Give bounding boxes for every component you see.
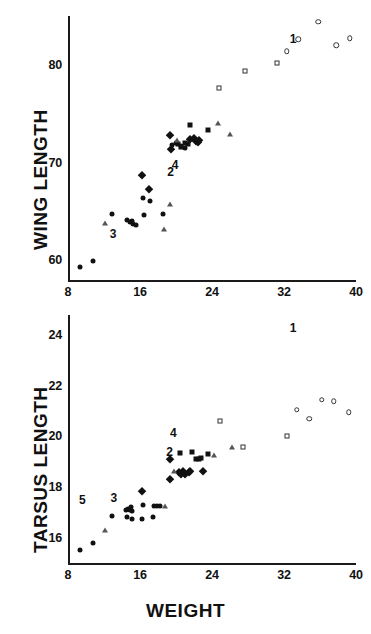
data-point-filled-circle — [160, 212, 165, 217]
group-label-2: 2 — [166, 445, 173, 459]
data-point-open-square — [240, 444, 245, 449]
tarsus-xtick-label: 40 — [349, 568, 363, 582]
data-point-filled-circle — [129, 516, 134, 521]
tarsus-x-axis-line — [68, 563, 356, 565]
data-point-open-circle — [315, 19, 321, 25]
data-point-filled-square — [190, 449, 195, 454]
wing-y-axis-line — [68, 16, 70, 280]
data-point-open-circle — [333, 43, 339, 49]
data-point-open-triangle — [167, 201, 173, 206]
tarsus-ytick-label: 22 — [32, 379, 62, 393]
wing-ytick-label: 80 — [32, 58, 62, 72]
data-point-open-triangle — [162, 504, 168, 509]
data-point-open-square — [218, 419, 223, 424]
panel-wing-length: 1234 WING LENGTH 607080816243240 — [0, 0, 371, 305]
data-point-open-square — [274, 60, 279, 65]
data-point-open-triangle — [227, 132, 233, 137]
data-point-filled-diamond — [199, 467, 207, 475]
weight-axis-title: WEIGHT — [0, 600, 371, 622]
data-point-open-square — [284, 434, 289, 439]
group-label-3: 3 — [110, 227, 117, 241]
data-point-open-triangle — [102, 221, 108, 226]
data-point-filled-square — [185, 142, 190, 147]
wing-axis-title: WING LENGTH — [30, 109, 52, 250]
data-point-open-square — [243, 68, 248, 73]
data-point-filled-diamond — [187, 467, 195, 475]
data-point-filled-square — [206, 128, 211, 133]
data-point-filled-diamond — [138, 171, 146, 179]
wing-xtick-label: 24 — [205, 285, 219, 299]
tarsus-y-axis-line — [68, 315, 70, 563]
tarsus-xtick-label: 8 — [65, 568, 72, 582]
data-point-filled-circle — [147, 198, 152, 203]
data-point-filled-circle — [140, 502, 145, 507]
data-point-filled-circle — [110, 212, 115, 217]
tarsus-axis-title: TARSUS LENGTH — [30, 386, 52, 553]
data-point-filled-circle — [140, 195, 145, 200]
data-point-filled-square — [177, 450, 182, 455]
data-point-filled-circle — [91, 540, 96, 545]
data-point-open-triangle — [211, 453, 217, 458]
data-point-open-circle — [306, 416, 312, 422]
data-point-filled-circle — [139, 516, 144, 521]
data-point-open-circle — [346, 410, 352, 416]
tarsus-ytick-label: 18 — [32, 480, 62, 494]
data-point-open-circle — [284, 48, 290, 54]
group-label-1: 1 — [290, 321, 297, 335]
group-label-4: 4 — [170, 426, 177, 440]
tarsus-ytick-label: 16 — [32, 531, 62, 545]
data-point-filled-square — [205, 452, 210, 457]
data-point-open-triangle — [102, 528, 108, 533]
caption-remnant — [0, 626, 371, 634]
scatter-figure: 1234 WING LENGTH 607080816243240 12345 T… — [0, 0, 371, 634]
data-point-filled-diamond — [166, 131, 174, 139]
wing-x-axis-line — [68, 280, 356, 282]
data-point-filled-circle — [110, 514, 115, 519]
data-point-filled-circle — [91, 259, 96, 264]
tarsus-xtick-label: 16 — [133, 568, 147, 582]
group-label-4: 4 — [172, 158, 179, 172]
tarsus-xtick-label: 24 — [205, 568, 219, 582]
group-label-5: 5 — [79, 493, 86, 507]
wing-ytick-label: 70 — [32, 156, 62, 170]
data-point-open-triangle — [174, 138, 180, 143]
data-point-open-square — [217, 86, 222, 91]
wing-xtick-label: 16 — [133, 285, 147, 299]
data-point-filled-circle — [141, 213, 146, 218]
wing-xtick-label: 40 — [349, 285, 363, 299]
data-point-open-circle — [347, 36, 353, 42]
data-point-filled-circle — [133, 223, 138, 228]
tarsus-ytick-label: 20 — [32, 429, 62, 443]
tarsus-xtick-label: 32 — [277, 568, 291, 582]
data-point-filled-circle — [150, 515, 155, 520]
wing-ytick-label: 60 — [32, 253, 62, 267]
data-point-filled-square — [199, 455, 204, 460]
panel-tarsus-length: 12345 TARSUS LENGTH 1618202224816243240 — [0, 305, 371, 595]
data-point-filled-circle — [129, 509, 134, 514]
group-label-1: 1 — [290, 32, 297, 46]
data-point-open-circle — [294, 407, 300, 413]
data-point-open-triangle — [229, 444, 235, 449]
data-point-open-circle — [319, 397, 325, 403]
wing-xtick-label: 8 — [65, 285, 72, 299]
data-point-open-triangle — [215, 120, 221, 125]
data-point-filled-diamond — [166, 476, 174, 484]
wing-xtick-label: 32 — [277, 285, 291, 299]
data-point-filled-diamond — [145, 185, 153, 193]
tarsus-ytick-label: 24 — [32, 328, 62, 342]
data-point-open-triangle — [171, 468, 177, 473]
data-point-filled-diamond — [138, 487, 146, 495]
data-point-filled-circle — [77, 265, 82, 270]
data-point-open-circle — [331, 398, 337, 404]
group-label-3: 3 — [111, 491, 118, 505]
data-point-filled-square — [187, 122, 192, 127]
data-point-open-triangle — [161, 227, 167, 232]
data-point-filled-circle — [77, 548, 82, 553]
